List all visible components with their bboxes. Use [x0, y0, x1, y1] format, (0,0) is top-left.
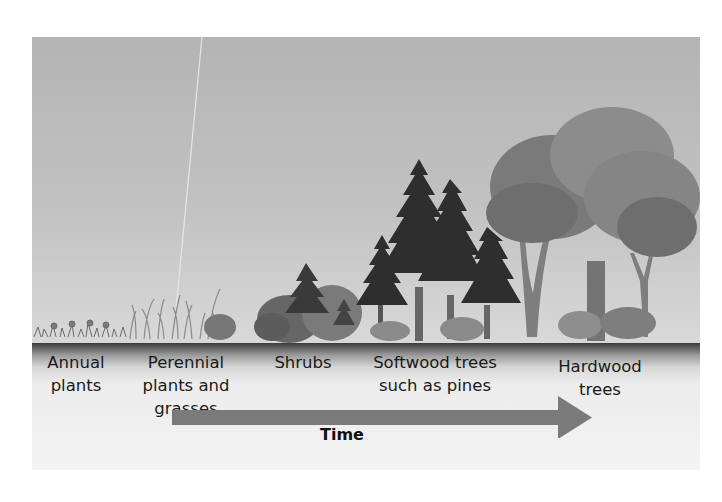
stage-label-softwood-trees: Softwood trees such as pines: [360, 351, 510, 397]
sky-streak: [176, 37, 202, 309]
succession-figure: Annual plants Perennial plants and grass…: [32, 37, 700, 470]
time-label: Time: [320, 425, 364, 444]
small-shrub-icon: [204, 314, 236, 340]
succession-scene: [32, 37, 700, 347]
annual-plants-icon: [34, 320, 126, 337]
hardwood-trees-icon: [486, 107, 700, 341]
time-arrow-icon: [170, 394, 594, 438]
shrubs-icon: [254, 263, 362, 343]
stage-label-shrubs: Shrubs: [258, 351, 348, 374]
stage-label-annual-plants: Annual plants: [34, 351, 118, 397]
